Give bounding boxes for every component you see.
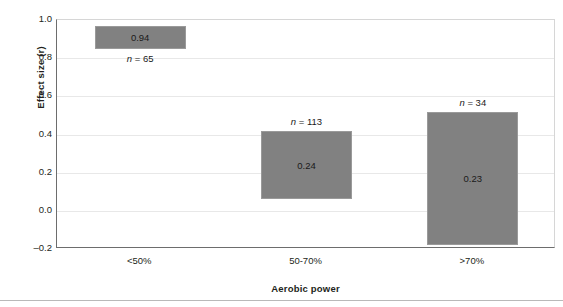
bar-value-label: 0.94	[96, 32, 185, 43]
plot-area: 0.94n = 650.24n = 1130.23n = 34	[56, 19, 555, 248]
bar-sample-size-label: n = 65	[70, 53, 210, 64]
bar-chart-figure: Effect size (r) 1.00.80.60.40.20.0–0.2 0…	[0, 0, 563, 307]
bar: 0.24	[261, 131, 352, 200]
x-axis-tick-label: >70%	[412, 255, 532, 266]
bar: 0.94	[95, 26, 186, 49]
x-axis-tick-labels: <50%50-70%>70%	[56, 255, 555, 271]
y-axis-tick-label: 0.8	[18, 52, 52, 62]
bar-sample-size-label: n = 34	[403, 97, 543, 108]
y-axis-tick-label: 0.2	[18, 167, 52, 177]
bar-sample-size-label: n = 113	[237, 116, 377, 127]
bar-value-label: 0.23	[428, 173, 517, 184]
x-axis-title: Aerobic power	[56, 283, 555, 294]
x-axis-tick-label: <50%	[79, 255, 199, 266]
y-axis-tick-label: 1.0	[18, 14, 52, 24]
y-axis-tick-labels: 1.00.80.60.40.20.0–0.2	[14, 0, 52, 307]
y-axis-tick-label: 0.6	[18, 90, 52, 100]
y-axis-tick-label: 0.0	[18, 205, 52, 215]
bar: 0.23	[427, 112, 518, 246]
x-axis-tick-label: 50-70%	[246, 255, 366, 266]
bar-value-label: 0.24	[262, 160, 351, 171]
y-axis-tick-label: –0.2	[18, 243, 52, 253]
footer-divider	[0, 300, 563, 301]
y-axis-tick-label: 0.4	[18, 129, 52, 139]
